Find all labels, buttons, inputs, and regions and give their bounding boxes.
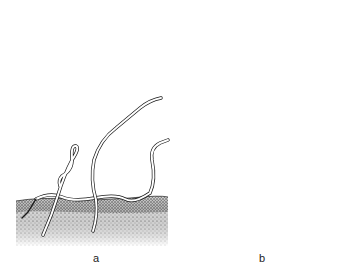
soil-strip xyxy=(16,196,168,246)
panel-label-b: b xyxy=(252,252,272,264)
panel-a xyxy=(16,98,168,246)
botanical-illustration xyxy=(0,0,340,279)
panel-label-a: a xyxy=(86,252,106,264)
